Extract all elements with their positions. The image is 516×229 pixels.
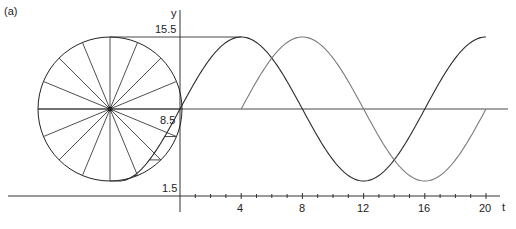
x-tick-12: 12 — [357, 202, 369, 214]
x-tick-8: 8 — [299, 202, 305, 214]
x-tick-20: 20 — [479, 202, 491, 214]
panel-label: (a) — [4, 5, 17, 17]
sine-wave-chart: (a) y t 15.5 8.5 1.5 4 8 12 16 20 — [0, 0, 516, 229]
t-axis-tick-labels: 4 8 12 16 20 — [237, 202, 491, 214]
y-tick-8-5: 8.5 — [160, 114, 175, 126]
x-tick-16: 16 — [418, 202, 430, 214]
y-tick-1-5: 1.5 — [162, 182, 177, 194]
projection-lines — [38, 37, 508, 181]
x-tick-4: 4 — [237, 202, 243, 214]
y-tick-15-5: 15.5 — [155, 23, 176, 35]
t-axis-label: t — [502, 201, 505, 213]
y-axis-label: y — [171, 7, 177, 19]
